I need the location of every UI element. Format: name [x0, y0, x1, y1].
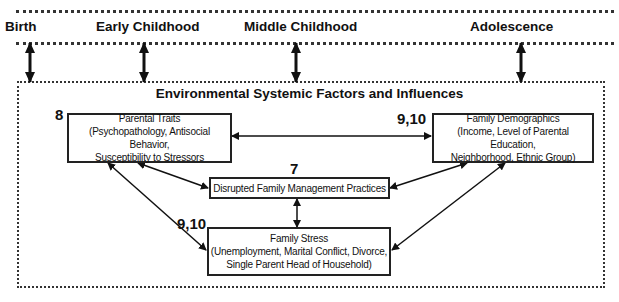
parental-traits-box: Parental Traits (Psychopathology, Antiso…	[67, 113, 232, 163]
family-stress-line2: Single Parent Head of Household)	[209, 258, 389, 271]
family-demographics-title: Family Demographics	[434, 112, 592, 125]
family-stress-ref-number: 9,10	[177, 215, 206, 232]
family-demographics-line1: (Income, Level of Parental Education,	[434, 125, 592, 151]
family-stress-box: Family Stress (Unemployment, Marital Con…	[207, 227, 391, 276]
family-stress-title: Family Stress	[209, 232, 389, 245]
parental-traits-title: Parental Traits	[69, 112, 230, 125]
family-stress-line1: (Unemployment, Marital Conflict, Divorce…	[209, 245, 389, 258]
parental-traits-line1: (Psychopathology, Antisocial Behavior,	[69, 125, 230, 151]
disrupted-management-box: Disrupted Family Management Practices	[209, 177, 390, 199]
parental-traits-ref-number: 8	[55, 106, 63, 123]
disrupted-management-title: Disrupted Family Management Practices	[211, 182, 388, 195]
family-demographics-ref-number: 9,10	[397, 110, 426, 127]
disrupted-management-ref-number: 7	[290, 160, 298, 177]
family-demographics-box: Family Demographics (Income, Level of Pa…	[432, 113, 594, 163]
family-demographics-line2: Neighborhood, Ethnic Group)	[434, 151, 592, 164]
parental-traits-line2: Susceptibility to Stressors	[69, 151, 230, 164]
